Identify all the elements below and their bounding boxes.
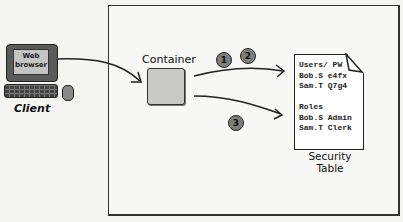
web-browser-screen: Web browser bbox=[13, 49, 49, 75]
arrow-container-to-table-bottom bbox=[194, 96, 281, 114]
table-line: Bob.S e4fx bbox=[299, 71, 352, 82]
arrow-client-to-container bbox=[58, 59, 140, 81]
screen-label-browser: browser bbox=[14, 61, 48, 70]
keyboard-icon bbox=[4, 84, 58, 98]
security-label-line1: Security bbox=[302, 150, 358, 162]
screen-label-web: Web bbox=[14, 52, 48, 61]
mouse-icon bbox=[62, 85, 74, 101]
container-label: Container bbox=[142, 53, 196, 66]
security-table-content: Users/ PW Bob.S e4fx Sam.T Q7g4 Roles Bo… bbox=[299, 60, 352, 134]
table-line: Users/ PW bbox=[299, 60, 352, 71]
table-line: Sam.T Q7g4 bbox=[299, 81, 352, 92]
step-2-badge: 2 bbox=[240, 48, 256, 64]
monitor-icon: Web browser bbox=[6, 44, 58, 82]
step-1-badge: 1 bbox=[216, 52, 232, 68]
table-line: Bob.S Admin bbox=[299, 113, 352, 124]
table-line: Sam.T Clerk bbox=[299, 123, 352, 134]
client-label: Client bbox=[14, 102, 50, 115]
container-box bbox=[147, 68, 185, 105]
table-line: Roles bbox=[299, 102, 352, 113]
table-line bbox=[299, 92, 352, 103]
security-table-label: Security Table bbox=[302, 150, 358, 174]
security-label-line2: Table bbox=[302, 162, 358, 174]
step-3-badge: 3 bbox=[228, 115, 244, 131]
arrow-container-to-table-top bbox=[194, 68, 283, 76]
